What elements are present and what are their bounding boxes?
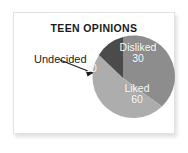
chart-title: TEEN OPINIONS [14, 22, 174, 34]
pie-label-undecided: Undecided [34, 54, 87, 65]
pie-label-liked: Liked 60 [106, 83, 168, 106]
chart-card: TEEN OPINIONS Undecided 10 Disliked 30 L… [13, 12, 175, 134]
pie-label-disliked: Disliked 30 [107, 42, 169, 65]
pie-value-undecided: 10 [80, 63, 102, 74]
pie-label-disliked-value: 30 [107, 53, 169, 64]
pie-label-liked-value: 60 [106, 94, 168, 105]
screenshot-root: TEEN OPINIONS Undecided 10 Disliked 30 L… [0, 0, 188, 153]
